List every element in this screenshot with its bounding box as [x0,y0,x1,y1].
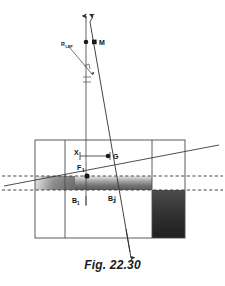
label-force: R [61,41,65,47]
label-force-group: R LBP [61,41,73,49]
label-b2-subscript: 2 [113,199,116,204]
point-marker-metacentre [92,40,97,45]
label-f1-subscript: 1 [82,168,85,173]
stability-diagram: M X G F 1 B 1 B 2 R LBP [0,0,225,286]
submerged-block [152,190,185,238]
water-band-group [35,176,152,190]
water-band-left-fade [35,176,75,190]
point-marker-centre-top [84,40,89,45]
inclined-axis [90,22,130,252]
label-point-x: X [74,149,79,156]
inclined-axis-arrow-bottom [126,229,131,258]
label-centre-of-gravity: G [113,153,119,160]
point-marker-g [106,154,111,159]
figure-container: M X G F 1 B 1 B 2 R LBP Fig. 22.30 [0,0,225,286]
force-leader-line [70,48,92,74]
figure-caption: Fig. 22.30 [0,258,225,272]
point-marker-f1 [84,173,89,178]
label-b1-subscript: 1 [77,201,80,206]
label-force-subscript: LBP [66,45,74,49]
label-b1-group: B 1 [72,197,80,206]
label-metacentre: M [99,39,105,46]
inclined-axis-arrow-top [90,16,93,22]
